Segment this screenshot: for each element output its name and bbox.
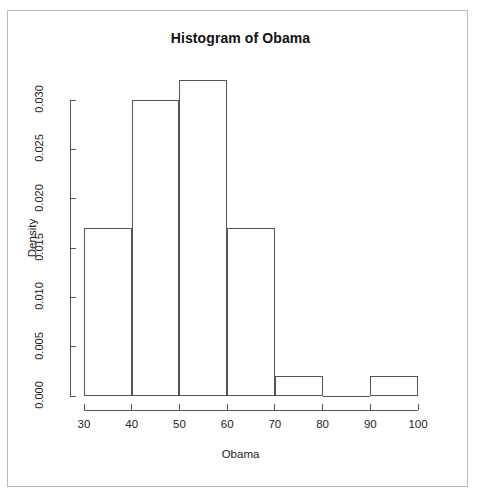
x-tick-label: 30: [64, 418, 104, 430]
screenshot-root: Histogram of Obama Obama Density 0.0000.…: [0, 0, 481, 497]
histogram-bin-60-70: [228, 229, 275, 396]
y-tick-label: 0.025: [33, 125, 45, 171]
x-axis: [84, 404, 418, 410]
histogram-bin-30-40: [85, 229, 132, 396]
x-tick-label: 50: [159, 418, 199, 430]
y-tick-label: 0.030: [33, 76, 45, 122]
histogram-bin-50-60: [180, 81, 227, 396]
y-tick-label: 0.000: [33, 372, 45, 418]
y-tick-label: 0.015: [33, 224, 45, 270]
y-tick-label: 0.005: [33, 323, 45, 369]
y-axis: [70, 100, 76, 396]
x-axis-title: Obama: [0, 448, 481, 460]
y-tick-label: 0.020: [33, 175, 45, 221]
histogram-bin-90-100: [371, 377, 418, 396]
histogram-bin-70-80: [275, 377, 322, 396]
histogram-bin-40-50: [132, 101, 179, 396]
x-tick-label: 40: [112, 418, 152, 430]
x-tick-label: 70: [255, 418, 295, 430]
x-tick-label: 60: [207, 418, 247, 430]
x-tick-label: 90: [350, 418, 390, 430]
x-tick-label: 100: [398, 418, 438, 430]
x-tick-label: 80: [303, 418, 343, 430]
histogram-bars: [85, 81, 418, 396]
chart-title: Histogram of Obama: [0, 30, 481, 46]
y-tick-label: 0.010: [33, 273, 45, 319]
